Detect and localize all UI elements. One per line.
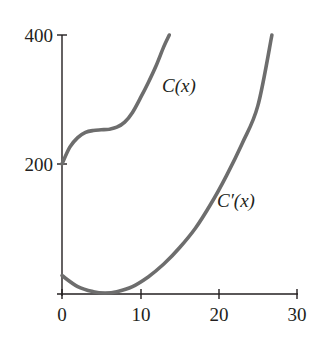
- y-tick-label-400: 400: [25, 25, 54, 46]
- x-tick-label-0: 0: [57, 304, 67, 325]
- x-tick-label-10: 10: [132, 304, 151, 325]
- y-tick-label-200: 200: [25, 154, 54, 175]
- c-prime-curve-label: C′(x): [217, 190, 255, 212]
- chart: 400 200 0 10 20 30 C(x) C′(x): [0, 0, 322, 345]
- x-tick-label-30: 30: [288, 304, 307, 325]
- x-tick-label-20: 20: [210, 304, 229, 325]
- curve-c-of-x: [62, 35, 169, 164]
- curve-c-prime-of-x: [62, 35, 272, 293]
- c-curve-label: C(x): [162, 75, 196, 97]
